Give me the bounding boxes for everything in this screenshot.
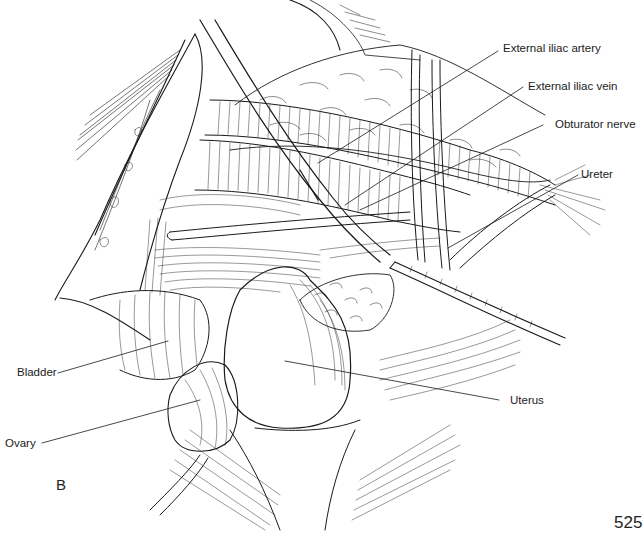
- retroperitoneal-fat: [230, 0, 550, 182]
- bladder-drawing: [90, 291, 209, 380]
- panel-letter: B: [56, 476, 66, 493]
- label-uterus: Uterus: [510, 394, 544, 407]
- retractor-blade: [200, 20, 390, 262]
- pelvic-sidewall-muscle: [145, 195, 440, 295]
- lower-abdominal-wall: [170, 425, 460, 530]
- anatomical-illustration-figure: External iliac artery External iliac vei…: [0, 0, 644, 536]
- page-number: 525: [614, 513, 642, 533]
- leader-obturator-nerve: [360, 125, 543, 210]
- leader-bladder: [58, 341, 168, 373]
- label-ureter: Ureter: [581, 168, 613, 181]
- label-external-iliac-artery: External iliac artery: [503, 42, 601, 55]
- leader-ovary: [42, 400, 200, 443]
- uterus-drawing: [224, 267, 360, 431]
- label-external-iliac-vein: External iliac vein: [528, 80, 617, 93]
- nodal-tissue: [300, 274, 394, 332]
- label-bladder: Bladder: [17, 366, 57, 379]
- label-ovary: Ovary: [5, 437, 36, 450]
- forceps: [390, 262, 565, 345]
- right-pelvic-wall: [380, 320, 520, 400]
- external-iliac-artery-drawing: [205, 100, 555, 205]
- leader-ureter: [448, 175, 578, 248]
- label-obturator-nerve: Obturator nerve: [555, 118, 636, 131]
- ovary-drawing: [150, 362, 238, 515]
